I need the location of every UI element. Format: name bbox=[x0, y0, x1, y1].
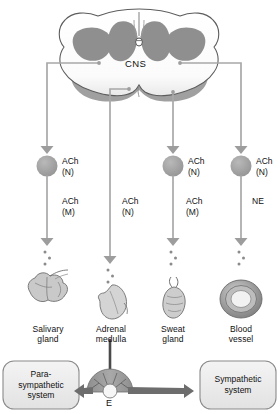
organ-adrenal-medulla bbox=[98, 285, 127, 319]
epinephrine-label: E bbox=[106, 398, 112, 408]
parasympathetic-line2: sympathetic bbox=[18, 380, 63, 390]
vessel-label-line1: Blood bbox=[230, 324, 252, 334]
sweat-label-line1: Sweat bbox=[161, 324, 185, 334]
sympathetic-box-label: Sympathetic system bbox=[200, 374, 276, 395]
adrenal-effector-transmitter: ACh (N) bbox=[122, 196, 139, 217]
salivary-effector-transmitter: ACh (M) bbox=[62, 196, 79, 217]
parasympathetic-box-label: Para- sympathetic system bbox=[3, 369, 79, 401]
vessel-ganglionic-receptor: (N) bbox=[256, 167, 268, 177]
arrow-to-sympathetic bbox=[128, 384, 194, 398]
autonomic-nervous-system-diagram: CNS ACh (N) ACh (M) ACh (N) ACh (N) ACh … bbox=[0, 0, 280, 414]
sweat-ganglionic-transmitter: ACh (N) bbox=[188, 156, 205, 177]
organ-label-sweat-gland: Sweat gland bbox=[142, 324, 204, 344]
salivary-effector-transmitter-name: ACh bbox=[62, 196, 79, 206]
pathway-adrenal bbox=[104, 256, 117, 284]
organ-sweat-gland bbox=[163, 277, 185, 318]
salivary-ganglionic-receptor: (N) bbox=[62, 167, 74, 177]
pathway-blood-vessel bbox=[231, 146, 252, 266]
pathway-salivary bbox=[37, 146, 58, 266]
salivary-effector-receptor: (M) bbox=[62, 207, 75, 217]
sympathetic-line2: system bbox=[225, 385, 252, 395]
neurotransmitter-dots bbox=[238, 251, 246, 266]
sweat-effector-transmitter-name: ACh bbox=[186, 196, 203, 206]
salivary-label-line2: gland bbox=[37, 334, 58, 344]
organ-label-salivary-gland: Salivary gland bbox=[12, 324, 84, 344]
vessel-label-line2: vessel bbox=[229, 334, 254, 344]
salivary-label-line1: Salivary bbox=[32, 324, 63, 334]
adrenal-effector-transmitter-name: ACh bbox=[122, 196, 139, 206]
vessel-effector-transmitter-name: NE bbox=[252, 196, 264, 206]
adrenal-label-line2: medulla bbox=[96, 334, 126, 344]
parasympathetic-line3: system bbox=[28, 390, 55, 400]
cns-spinal-cord bbox=[59, 9, 219, 102]
organ-label-blood-vessel: Blood vessel bbox=[209, 324, 273, 344]
adrenal-effector-receptor: (N) bbox=[122, 207, 134, 217]
organ-blood-vessel bbox=[220, 280, 262, 318]
sweat-label-line2: gland bbox=[162, 334, 183, 344]
adrenal-label-line1: Adrenal bbox=[96, 324, 126, 334]
vessel-effector-transmitter: NE bbox=[252, 196, 264, 207]
epinephrine-release-fan bbox=[87, 340, 133, 398]
organ-salivary-gland bbox=[28, 270, 68, 302]
sweat-effector-transmitter: ACh (M) bbox=[186, 196, 203, 217]
sweat-effector-receptor: (M) bbox=[186, 207, 199, 217]
neurotransmitter-dots bbox=[170, 251, 178, 266]
neurotransmitter-dots bbox=[44, 251, 52, 266]
organ-label-adrenal-medulla: Adrenal medulla bbox=[78, 324, 144, 344]
sweat-ganglionic-transmitter-name: ACh bbox=[188, 156, 205, 166]
parasympathetic-line1: Para- bbox=[31, 369, 52, 379]
neurotransmitter-dots bbox=[107, 269, 115, 284]
sympathetic-line1: Sympathetic bbox=[215, 374, 262, 384]
salivary-ganglionic-transmitter-name: ACh bbox=[62, 156, 79, 166]
vessel-ganglionic-transmitter: ACh (N) bbox=[256, 156, 273, 177]
sweat-ganglionic-receptor: (N) bbox=[188, 167, 200, 177]
vessel-ganglionic-transmitter-name: ACh bbox=[256, 156, 273, 166]
cns-label: CNS bbox=[125, 58, 146, 69]
pathway-sweat bbox=[163, 146, 184, 266]
salivary-ganglionic-transmitter: ACh (N) bbox=[62, 156, 79, 177]
